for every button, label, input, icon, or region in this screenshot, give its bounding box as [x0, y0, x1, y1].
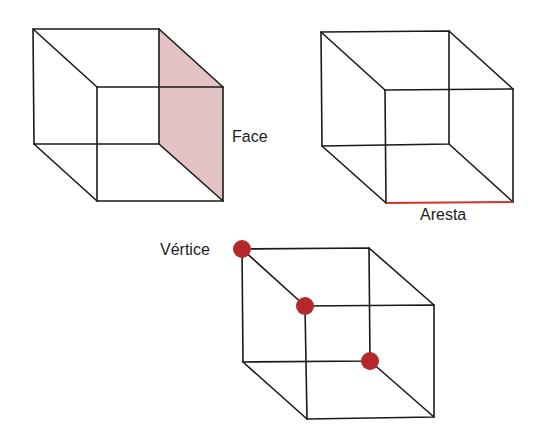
highlighted-edge: [386, 202, 513, 203]
highlighted-face: [159, 29, 223, 201]
edge-cube: Aresta: [321, 31, 513, 223]
face-cube: Face: [33, 29, 268, 201]
vertex-dot-3: [361, 352, 379, 370]
vertex-cube: Vértice: [160, 240, 434, 419]
vertex-label: Vértice: [160, 241, 210, 258]
face-label: Face: [232, 128, 268, 145]
cube-elements-diagram: Face Aresta Vértice: [0, 0, 546, 446]
vertex-dot-2: [296, 297, 314, 315]
edge-label: Aresta: [420, 206, 466, 223]
vertex-dot-1: [233, 240, 251, 258]
